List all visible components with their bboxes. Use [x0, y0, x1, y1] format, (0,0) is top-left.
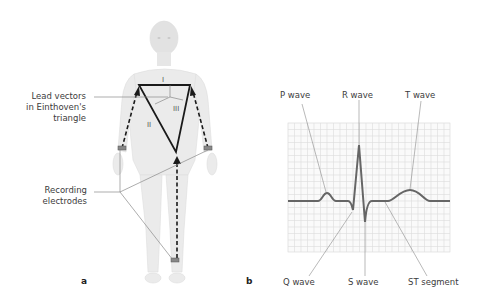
lead-II-label: II: [147, 121, 151, 129]
panel-a-label: a: [81, 276, 87, 286]
lead-vectors-line-3: triangle: [10, 113, 86, 124]
st-segment-label: ST segment: [408, 277, 459, 288]
lead-vectors-line-2: in Einthoven's: [10, 102, 86, 113]
electrode-left-wrist: [118, 146, 126, 150]
p-wave-label: P wave: [280, 90, 310, 101]
lead-vectors-line-1: Lead vectors: [10, 91, 86, 102]
s-wave-label: S wave: [348, 277, 379, 288]
human-body-figure: [113, 21, 217, 283]
q-wave-label: Q wave: [283, 277, 315, 288]
lead-vectors-label: Lead vectors in Einthoven's triangle: [10, 91, 86, 124]
figure-canvas: I II III: [0, 0, 477, 306]
recording-electrodes-line-1: Recording: [10, 185, 87, 196]
lead-III-label: III: [173, 105, 179, 113]
electrode-right-wrist: [204, 146, 212, 150]
t-wave-label: T wave: [405, 90, 435, 101]
panel-b-label: b: [246, 276, 252, 286]
lead-I-label: I: [162, 76, 164, 84]
recording-electrodes-line-2: electrodes: [10, 196, 87, 207]
recording-electrodes-label: Recording electrodes: [10, 185, 87, 207]
r-wave-label: R wave: [342, 90, 373, 101]
